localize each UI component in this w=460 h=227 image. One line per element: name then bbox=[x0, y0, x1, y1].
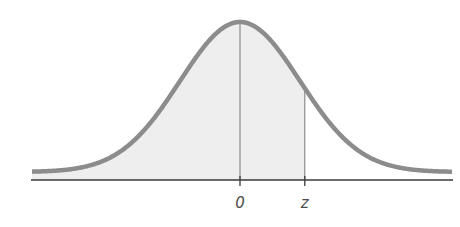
normal-distribution-chart: 0 z bbox=[0, 0, 460, 227]
mean-tick-label: 0 bbox=[235, 194, 245, 212]
z-tick-label: z bbox=[300, 194, 310, 212]
